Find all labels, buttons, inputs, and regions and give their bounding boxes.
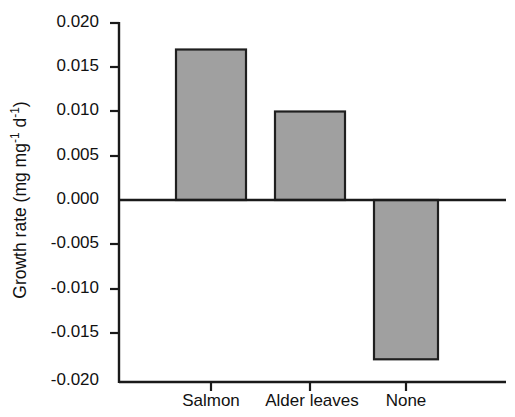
y-axis-label-sup1: -1 [8,132,22,143]
ytick-label-8: -0.020 [51,370,99,389]
y-axis-label-suffix: ) [10,101,30,107]
ytick-label-5: -0.005 [51,233,99,252]
xtick-label-alder-leaves: Alder leaves [265,391,359,410]
ytick-label-4: 0.000 [56,189,99,208]
bar-series [176,50,438,360]
y-axis-label: Growth rate (mg mg-1 d-1) [8,101,30,298]
xtick-label-none: None [386,391,427,410]
bar-chart-figure: Growth rate (mg mg-1 d-1) 0.020 0.015 0.… [0,0,515,417]
ytick-label-7: -0.015 [51,322,99,341]
xtick-label-salmon: Salmon [182,391,240,410]
y-axis-label-mid: d [10,118,30,133]
ytick-label-2: 0.010 [56,100,99,119]
chart-canvas: Growth rate (mg mg-1 d-1) 0.020 0.015 0.… [0,0,515,417]
y-axis-ticks [110,23,119,333]
y-axis-label-prefix: Growth rate (mg mg [10,143,30,299]
x-axis-ticks [211,382,406,391]
y-axis-label-sup2: -1 [8,107,22,118]
ytick-label-1: 0.015 [56,56,99,75]
bar-none[interactable] [374,200,438,359]
ytick-label-3: 0.005 [56,145,99,164]
bar-alder-leaves[interactable] [275,112,345,201]
ytick-label-0: 0.020 [56,12,99,31]
svg-text:Growth rate (mg mg-1 d-1): Growth rate (mg mg-1 d-1) [8,101,30,298]
bar-salmon[interactable] [176,50,246,201]
ytick-label-6: -0.010 [51,278,99,297]
